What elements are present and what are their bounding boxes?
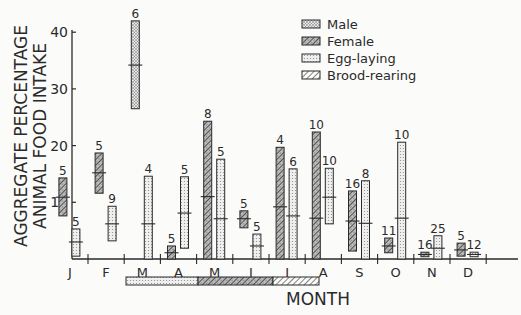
- sample-size-label: 6: [131, 7, 139, 21]
- range-bar-egg-laying: 9: [105, 192, 119, 241]
- y-axis-label-line: AGGREGATE PERCENTAGE: [11, 25, 31, 247]
- legend-item-egg: Egg-laying: [302, 51, 396, 66]
- range-bar-female: 16: [417, 238, 432, 257]
- season-brood-rearing-dense: [198, 277, 273, 285]
- legend-item-male: Male: [302, 17, 358, 32]
- season-egg-laying: [126, 277, 198, 285]
- bar-range: [144, 176, 152, 259]
- y-tick-label: 30: [50, 81, 68, 97]
- sample-size-label: 5: [181, 163, 189, 177]
- bar-range: [434, 236, 442, 259]
- legend-swatch: [302, 20, 320, 28]
- sample-size-label: 5: [457, 229, 465, 243]
- range-bar-egg-laying: 4: [141, 162, 155, 259]
- sample-size-label: 16: [345, 177, 360, 191]
- legend-item-brood: Brood-rearing: [302, 68, 416, 83]
- sample-size-label: 16: [417, 238, 432, 252]
- bar-range: [181, 177, 189, 248]
- x-tick-label: F: [102, 265, 109, 280]
- bar-range: [276, 147, 284, 259]
- legend-swatch: [302, 37, 320, 45]
- bar-range: [217, 159, 225, 259]
- bar-range: [253, 234, 261, 259]
- bar-range: [398, 142, 406, 259]
- bar-range: [385, 238, 393, 253]
- sample-size-label: 5: [59, 164, 67, 178]
- y-axis-label-line: ANIMAL FOOD INTAKE: [30, 43, 50, 229]
- sample-size-label: 5: [217, 145, 225, 159]
- sample-size-label: 5: [240, 197, 248, 211]
- legend-item-female: Female: [302, 34, 374, 49]
- sample-size-label: 5: [95, 139, 103, 153]
- range-bar-female: 16: [345, 177, 360, 251]
- range-bar-female: 5: [165, 232, 179, 259]
- range-bar-female: 5: [92, 139, 106, 193]
- range-bar-female: 5: [237, 197, 251, 228]
- season-brood-rearing: [273, 277, 319, 285]
- bar-range: [289, 169, 297, 259]
- range-bar-egg-laying: 12: [466, 238, 481, 257]
- legend-swatch: [302, 71, 320, 79]
- legend-label: Brood-rearing: [327, 68, 416, 83]
- range-bar-egg-laying: 5: [214, 145, 228, 259]
- range-bar-egg-laying: 10: [394, 128, 409, 259]
- range-bar-egg-laying: 25: [430, 222, 445, 259]
- range-bar-egg-laying: 5: [250, 220, 264, 259]
- y-tick-label: 20: [50, 138, 68, 154]
- legend-label: Male: [327, 17, 358, 32]
- sample-size-label: 4: [144, 162, 152, 176]
- bar-range: [362, 181, 370, 259]
- range-bar-female: 8: [201, 107, 215, 259]
- x-tick-label: J: [67, 265, 72, 280]
- sample-size-label: 5: [168, 232, 176, 246]
- range-bar-egg-laying: 5: [178, 163, 192, 248]
- bar-range: [312, 132, 320, 259]
- sample-size-label: 11: [381, 224, 396, 238]
- season-bar: [126, 277, 319, 285]
- legend-label: Female: [327, 34, 374, 49]
- range-bar-egg-laying: 8: [359, 167, 373, 259]
- range-bar-female: 4: [273, 133, 287, 259]
- sample-size-label: 8: [204, 107, 212, 121]
- x-tick-label: A: [319, 265, 328, 280]
- x-tick-label: O: [391, 265, 401, 280]
- bar-range: [240, 211, 248, 228]
- range-bar-egg-laying: 5: [69, 215, 83, 256]
- sample-size-label: 10: [309, 118, 324, 132]
- bar-range: [204, 121, 212, 259]
- y-tick-label: 40: [50, 24, 68, 40]
- sample-size-label: 10: [322, 154, 337, 168]
- bar-range: [325, 168, 333, 224]
- bars-layer: 65558541016111655945556108102512: [56, 7, 482, 259]
- sample-size-label: 5: [253, 220, 261, 234]
- sample-size-label: 12: [466, 238, 481, 252]
- sample-size-label: 8: [362, 167, 370, 181]
- bar-range: [72, 229, 80, 256]
- x-tick-label: N: [427, 265, 437, 280]
- range-bar-female: 11: [381, 224, 396, 253]
- legend: MaleFemaleEgg-layingBrood-rearing: [302, 17, 416, 83]
- x-axis-label: MONTH: [286, 289, 350, 309]
- x-tick-label: D: [463, 265, 473, 280]
- sample-size-label: 25: [430, 222, 445, 236]
- x-tick-label: S: [355, 265, 363, 280]
- sample-size-label: 6: [289, 155, 297, 169]
- range-bar-female: 10: [309, 118, 324, 259]
- y-axis-label: AGGREGATE PERCENTAGEANIMAL FOOD INTAKE: [11, 25, 50, 247]
- sample-size-label: 9: [108, 192, 116, 206]
- legend-label: Egg-laying: [327, 51, 396, 66]
- sample-size-label: 10: [394, 128, 409, 142]
- legend-swatch: [302, 54, 320, 62]
- range-bar-egg-laying: 10: [322, 154, 337, 224]
- sample-size-label: 5: [72, 215, 80, 229]
- chart-canvas: AGGREGATE PERCENTAGEANIMAL FOOD INTAKE 1…: [0, 0, 521, 315]
- range-bar-egg-laying: 6: [286, 155, 300, 259]
- range-bar-male: 6: [128, 7, 142, 109]
- sample-size-label: 4: [276, 133, 284, 147]
